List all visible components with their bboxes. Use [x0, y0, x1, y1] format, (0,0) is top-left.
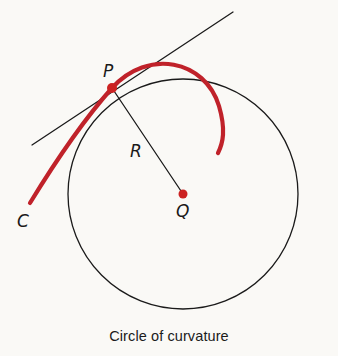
- label-point-p: P: [103, 63, 113, 80]
- label-point-q: Q: [176, 203, 189, 220]
- point-q-dot: [179, 190, 188, 199]
- figure-canvas: [0, 0, 338, 356]
- figure-background: [0, 0, 338, 356]
- label-radius-r: R: [130, 143, 142, 160]
- point-p-dot: [107, 83, 117, 93]
- circle-of-curvature-figure: P Q R C Circle of curvature: [0, 0, 338, 356]
- figure-caption: Circle of curvature: [0, 328, 338, 344]
- label-curve-c: C: [17, 213, 29, 230]
